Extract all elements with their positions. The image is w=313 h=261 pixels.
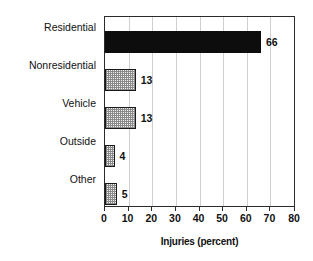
xtick-60 bbox=[246, 207, 247, 211]
bar-value-other: 5 bbox=[122, 183, 128, 205]
category-label-outside: Outside bbox=[0, 135, 96, 147]
bar-outside bbox=[105, 145, 115, 167]
xtick-70 bbox=[269, 207, 270, 211]
bar-chart: Residential Nonresidential Vehicle Outsi… bbox=[0, 0, 313, 261]
plot-area: 66 13 13 4 5 bbox=[104, 16, 295, 207]
category-axis-labels: Residential Nonresidential Vehicle Outsi… bbox=[0, 16, 100, 207]
category-label-vehicle: Vehicle bbox=[0, 97, 96, 109]
x-axis-title: Injuries (percent) bbox=[104, 236, 295, 247]
xtick-40 bbox=[199, 207, 200, 211]
bar-vehicle bbox=[105, 107, 136, 129]
bar-value-nonresidential: 13 bbox=[141, 69, 153, 91]
category-label-residential: Residential bbox=[0, 21, 96, 33]
category-label-other: Other bbox=[0, 173, 96, 185]
bar-value-vehicle: 13 bbox=[141, 107, 153, 129]
xtick-30 bbox=[175, 207, 176, 211]
xtick-80 bbox=[294, 207, 295, 211]
category-label-nonresidential: Nonresidential bbox=[0, 59, 96, 71]
bar-residential bbox=[105, 31, 261, 53]
bar-other bbox=[105, 183, 117, 205]
bar-value-outside: 4 bbox=[120, 145, 126, 167]
xtick-20 bbox=[151, 207, 152, 211]
xtick-50 bbox=[222, 207, 223, 211]
bar-nonresidential bbox=[105, 69, 136, 91]
xtick-0 bbox=[104, 207, 105, 211]
xtick-10 bbox=[128, 207, 129, 211]
bar-value-residential: 66 bbox=[266, 31, 278, 53]
xtick-label-80: 80 bbox=[279, 212, 309, 224]
